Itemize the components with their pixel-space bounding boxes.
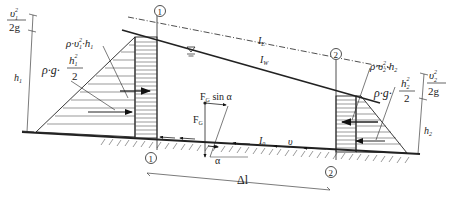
svg-text:h12: h12	[69, 53, 78, 67]
svg-text:2g: 2g	[428, 85, 440, 97]
section-2-label-top: 2	[334, 50, 339, 60]
length-label: Δl	[237, 173, 249, 187]
right-dynamic-force-label: ρ·υ22·h2	[369, 60, 397, 73]
svg-text:2: 2	[72, 70, 78, 82]
right-pressure-diagram	[336, 68, 407, 153]
left-hydrostatic-force-label: ρ·g· h12 2	[41, 53, 83, 82]
slope-angle-label: α	[215, 155, 221, 166]
section-1-label-top: 1	[158, 7, 163, 17]
left-pressure-diagram	[36, 37, 157, 138]
left-dynamic-force-label: ρ·υ12·h1	[65, 37, 93, 50]
gravity-component-label: FG sin α	[200, 91, 233, 103]
right-depth-dimension	[418, 73, 428, 154]
svg-text:ρ·g·: ρ·g·	[373, 86, 392, 100]
section-2-label-bottom: 2	[329, 168, 334, 178]
svg-text:h22: h22	[401, 76, 410, 90]
svg-text:2g: 2g	[9, 21, 21, 33]
svg-text:ρ·g·: ρ·g·	[41, 63, 60, 77]
right-velocity-head: υ22 2g	[427, 69, 446, 97]
water-surface-label: IW	[259, 54, 269, 66]
gravity-weight-label: FG	[193, 114, 204, 126]
section-1-label-bottom: 1	[149, 154, 154, 164]
velocity-label: υ	[288, 136, 293, 147]
left-depth-dimension	[22, 14, 37, 132]
energy-line-label: IE	[257, 35, 265, 47]
water-surface-symbol	[187, 47, 195, 56]
svg-text:υ12: υ12	[10, 7, 18, 21]
right-depth-label: h2	[424, 125, 432, 137]
svg-text:2: 2	[404, 92, 410, 104]
channel-bed	[22, 132, 420, 163]
bed-slope-label: I0	[258, 135, 265, 147]
gravity-force-diagram	[203, 101, 248, 157]
left-velocity-head: υ12 2g	[7, 7, 26, 33]
svg-text:υ22: υ22	[429, 69, 437, 83]
left-depth-label: h1	[14, 72, 22, 84]
hydraulic-jump-diagram: 1 1 IE IW FG sin α FG α I0 υ Δl	[0, 0, 454, 198]
